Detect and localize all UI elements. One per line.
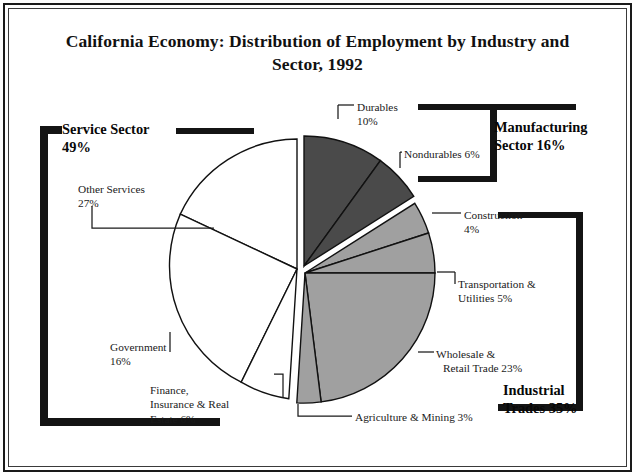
label-manufacturing-sector: Manufacturing Sector 16% [494,118,588,154]
label-durables: Durables 10% [357,100,398,129]
pie-chart-figure: California Economy: Distribution of Empl… [0,0,635,475]
label-transportation-utilities: Transportation & Utilities 5% [458,277,536,306]
label-government: Government 16% [110,340,166,369]
label-other-services: Other Services 27% [78,182,145,211]
label-agriculture-mining: Agriculture & Mining 3% [355,410,473,424]
label-service-sector: Service Sector 49% [62,120,150,156]
label-construction: Construction 4% [464,208,522,237]
slice-wholesale-retail-trade[interactable] [305,273,435,402]
label-wholesale-retail-trade: Wholesale &Retail Trade 23% [436,347,522,376]
label-wholesale-line2: Retail Trade 23% [436,361,522,375]
label-wholesale-line1: Wholesale & [436,348,495,360]
label-nondurables: Nondurables 6% [404,147,480,161]
label-industrial-trades: Industrial Trades 35% [503,381,577,417]
label-finance-insurance-real-estate: Finance, Insurance & Real Estate 6% [150,383,229,426]
leader-agriculture [298,404,352,416]
